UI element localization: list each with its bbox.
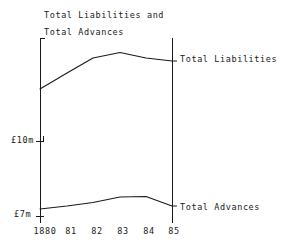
ytick-label-10m: £10m <box>11 135 34 145</box>
xtick-label-1880: 1880 <box>34 226 57 236</box>
series-line-total-advances <box>40 197 172 210</box>
series-line-total-liabilities <box>40 53 172 90</box>
chart-container: Total Liabilities and Total Advances Tot… <box>0 0 292 249</box>
ytick-label-7m: £7m <box>14 209 31 219</box>
xtick-label-84: 84 <box>143 226 154 236</box>
xtick-label-85: 85 <box>168 226 179 236</box>
series-label-total-liabilities: Total Liabilities <box>180 54 277 64</box>
series-label-total-advances: Total Advances <box>180 202 260 212</box>
xtick-label-82: 82 <box>91 226 102 236</box>
xtick-label-81: 81 <box>65 226 76 236</box>
xtick-label-83: 83 <box>117 226 128 236</box>
